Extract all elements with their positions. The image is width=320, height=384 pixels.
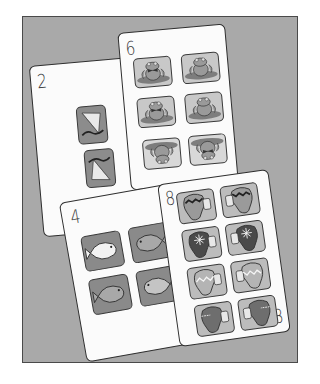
frog-icon xyxy=(134,57,172,88)
mitten-icon xyxy=(231,258,271,293)
frog-tile xyxy=(180,51,220,84)
frog-tile xyxy=(133,55,173,88)
kite-icon xyxy=(77,105,108,143)
card-rank: 6 xyxy=(125,39,136,59)
card-6[interactable]: 6 xyxy=(117,24,238,191)
frog-icon xyxy=(185,92,223,123)
fish-tile xyxy=(88,273,134,315)
kite-icon xyxy=(84,149,115,187)
card-rank: 2 xyxy=(36,71,47,91)
mitten-tile xyxy=(219,182,261,219)
fish-icon xyxy=(90,276,131,312)
mitten-icon xyxy=(194,302,234,337)
mitten-icon xyxy=(182,227,222,262)
frog-icon xyxy=(189,134,227,165)
frog-icon xyxy=(143,138,181,169)
frog-icon xyxy=(137,96,175,127)
frog-tile xyxy=(188,133,228,166)
kite-tile xyxy=(76,104,109,144)
frog-tile xyxy=(142,137,182,170)
frog-icon xyxy=(182,52,220,83)
kite-tile xyxy=(83,148,116,188)
card-rank: 4 xyxy=(69,207,82,227)
mitten-icon xyxy=(177,189,217,224)
frog-tile xyxy=(136,95,176,128)
fish-icon xyxy=(82,233,123,269)
mitten-tile xyxy=(230,257,272,294)
mitten-tile xyxy=(224,219,266,256)
mitten-tile xyxy=(181,225,223,262)
card-8[interactable]: 8 8 xyxy=(157,169,291,347)
mitten-tile xyxy=(175,188,217,225)
card-rank: 8 xyxy=(164,188,176,208)
mitten-icon xyxy=(238,295,278,330)
fish-tile xyxy=(80,230,126,272)
mitten-icon xyxy=(225,220,265,255)
mitten-tile xyxy=(237,294,279,331)
frog-tile xyxy=(184,91,224,124)
mitten-tile xyxy=(193,300,235,337)
mitten-icon xyxy=(187,264,227,299)
mitten-tile xyxy=(186,263,228,300)
mitten-icon xyxy=(220,183,260,218)
